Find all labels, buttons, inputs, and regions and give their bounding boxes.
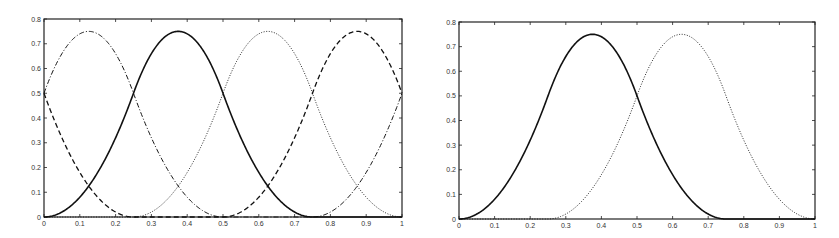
y-tick-label: 0.5 [446, 92, 456, 99]
x-tick-label: 0.6 [668, 222, 678, 229]
series-lines [459, 34, 815, 219]
y-tick-label: 0.1 [446, 191, 456, 198]
series-dotted [459, 34, 815, 219]
y-tick-label: 0 [452, 216, 456, 223]
chart-right: 00.10.20.30.40.50.60.70.8 00.10.20.30.40… [0, 0, 839, 238]
x-tick-label: 0.3 [561, 222, 571, 229]
x-tick-label: 0.7 [703, 222, 713, 229]
y-tick-label: 0.3 [446, 142, 456, 149]
y-tick-label: 0.4 [446, 117, 456, 124]
plot-frame [459, 22, 815, 219]
x-tick-label: 0.5 [632, 222, 642, 229]
y-tick-label: 0.6 [446, 68, 456, 75]
series-solid [459, 34, 815, 219]
y-tick-label: 0.7 [446, 43, 456, 50]
y-tick-label: 0.2 [446, 166, 456, 173]
x-tick-label: 0.4 [597, 222, 607, 229]
x-tick-label: 0.8 [739, 222, 749, 229]
x-tick-label: 0.9 [775, 222, 785, 229]
y-tick-label: 0.8 [446, 19, 456, 26]
x-tick-label: 0.1 [490, 222, 500, 229]
x-axis-ticks: 00.10.20.30.40.50.60.70.80.91 [457, 22, 817, 229]
x-tick-label: 0 [457, 222, 461, 229]
x-tick-label: 1 [813, 222, 817, 229]
x-tick-label: 0.2 [525, 222, 535, 229]
